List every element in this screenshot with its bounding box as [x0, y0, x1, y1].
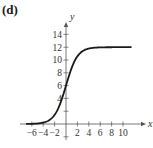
x-tick-label: −2: [50, 128, 60, 138]
x-tick-label: −4: [38, 128, 48, 138]
x-axis-label: x: [147, 118, 153, 129]
y-axis-arrow-icon: [64, 22, 68, 27]
x-tick-label: 6: [98, 128, 103, 138]
x-tick-label: 8: [109, 128, 114, 138]
x-tick-label: 10: [118, 128, 128, 138]
y-tick-label: 10: [53, 55, 63, 65]
data-curve: [26, 47, 131, 124]
chart: −6−4−2246810468101214 x y: [0, 0, 153, 148]
x-tick-label: 4: [86, 128, 91, 138]
y-axis-label: y: [69, 11, 75, 22]
x-tick-label: 2: [75, 128, 80, 138]
x-axis-arrow-icon: [141, 122, 146, 126]
axes: [20, 22, 146, 140]
x-tick-label: −6: [27, 128, 37, 138]
y-tick-label: 14: [53, 30, 63, 40]
y-tick-label: 8: [57, 68, 62, 78]
y-tick-label: 6: [57, 81, 62, 91]
y-tick-label: 12: [53, 43, 63, 53]
